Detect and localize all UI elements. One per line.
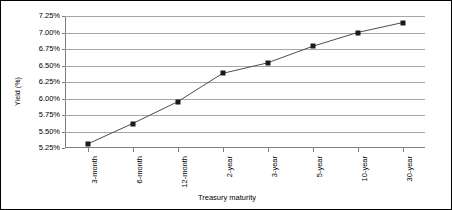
y-tick-label: 7.25% [39, 12, 60, 20]
y-tick-label: 6.00% [39, 95, 60, 103]
data-point-marker [175, 99, 180, 104]
y-axis-title-label: Yield (%) [15, 76, 22, 105]
y-axis-title: Yield (%) [11, 59, 25, 123]
x-tick-mark [88, 148, 89, 152]
data-point-marker [310, 44, 315, 49]
y-tick-label: 5.50% [39, 128, 60, 136]
plot-area [65, 16, 425, 148]
x-tick-mark [133, 148, 134, 152]
x-tick-label: 30-year [406, 156, 414, 181]
data-point-marker [355, 30, 360, 35]
x-tick-mark [178, 148, 179, 152]
y-tick-mark [62, 148, 65, 149]
data-point-marker [85, 142, 90, 147]
data-point-marker [265, 60, 270, 65]
x-tick-label: 2-year [226, 156, 234, 177]
y-axis-tick-labels: 5.25%5.50%5.75%6.00%6.25%6.50%6.75%7.00%… [25, 16, 63, 148]
y-tick-label: 5.25% [39, 144, 60, 152]
data-point-marker [130, 121, 135, 126]
x-tick-label: 5-year [316, 156, 324, 177]
x-tick-mark [223, 148, 224, 152]
x-tick-label: 3-month [91, 156, 99, 184]
data-markers [65, 16, 425, 148]
y-tick-label: 6.75% [39, 45, 60, 53]
x-axis-title: Treasury maturity [1, 193, 452, 202]
x-tick-label: 3-year [271, 156, 279, 177]
x-tick-label: 10-year [361, 156, 369, 181]
yield-curve-chart: Yield (%) 5.25%5.50%5.75%6.00%6.25%6.50%… [0, 0, 452, 210]
x-tick-label: 12-month [181, 156, 189, 188]
x-tick-label: 6-month [136, 156, 144, 184]
x-tick-mark [268, 148, 269, 152]
data-point-marker [400, 20, 405, 25]
y-tick-label: 6.50% [39, 62, 60, 70]
x-tick-mark [358, 148, 359, 152]
y-tick-label: 6.25% [39, 78, 60, 86]
x-tick-mark [313, 148, 314, 152]
data-point-marker [220, 71, 225, 76]
x-tick-mark [403, 148, 404, 152]
y-tick-label: 5.75% [39, 111, 60, 119]
y-tick-label: 7.00% [39, 29, 60, 37]
